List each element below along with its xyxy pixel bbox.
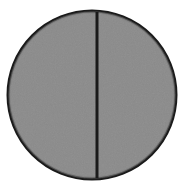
figure-container: Bisected gray disc bbox=[0, 0, 182, 185]
bisected-circle-diagram bbox=[0, 0, 182, 185]
